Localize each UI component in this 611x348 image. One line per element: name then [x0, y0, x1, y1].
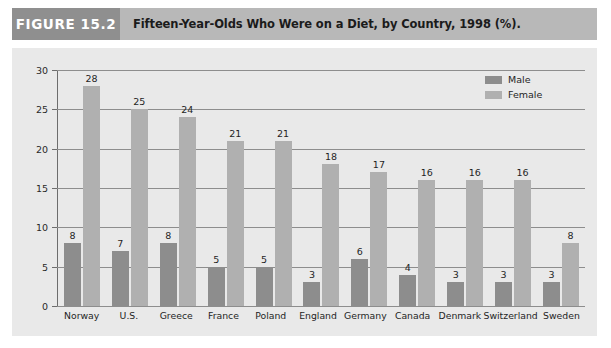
bar-female[interactable]: 17 — [370, 172, 387, 306]
bar-value-label: 21 — [277, 128, 289, 139]
bar-value-label: 6 — [357, 246, 363, 257]
x-axis-label: Poland — [247, 310, 294, 321]
bar-group: 316 — [489, 70, 537, 306]
bar-female[interactable]: 8 — [562, 243, 579, 306]
figure-title: Fifteen-Year-Olds Who Were on a Diet, by… — [133, 17, 521, 31]
bar-value-label: 4 — [405, 262, 411, 273]
x-axis-label: England — [294, 310, 341, 321]
bar-group-container: 82872582452152131861741631631638 — [58, 70, 585, 306]
figure-number-label: FIGURE 15.2 — [16, 16, 117, 32]
bar-male[interactable]: 3 — [303, 282, 320, 306]
bar-group: 521 — [250, 70, 298, 306]
bar-group: 725 — [106, 70, 154, 306]
bar-value-label: 21 — [229, 128, 241, 139]
bar-male[interactable]: 7 — [112, 251, 129, 306]
x-axis-label: Canada — [389, 310, 436, 321]
bar-male[interactable]: 6 — [351, 259, 368, 306]
y-axis-tick — [52, 306, 57, 307]
figure-number-badge: FIGURE 15.2 — [12, 8, 120, 40]
bar-group: 416 — [393, 70, 441, 306]
bar-female[interactable]: 16 — [418, 180, 435, 306]
plot-area: 051015202530 828725824521521318617416316… — [57, 70, 585, 306]
bar-group: 617 — [345, 70, 393, 306]
legend-item-male: Male — [485, 74, 542, 85]
y-axis-tick — [52, 70, 57, 71]
bar-male[interactable]: 3 — [543, 282, 560, 306]
bar-male[interactable]: 8 — [160, 243, 177, 306]
bar-male[interactable]: 5 — [256, 267, 273, 306]
x-axis-label: Germany — [342, 310, 389, 321]
bar-male[interactable]: 3 — [495, 282, 512, 306]
bar-male[interactable]: 4 — [399, 275, 416, 306]
y-axis-tick-label: 15 — [36, 183, 48, 194]
bar-female[interactable]: 21 — [275, 141, 292, 306]
bar-male[interactable]: 5 — [208, 267, 225, 306]
x-axis-label: Switzerland — [484, 310, 538, 321]
legend-label-male: Male — [508, 74, 531, 85]
y-axis-tick-label: 20 — [36, 143, 48, 154]
y-axis-tick — [52, 227, 57, 228]
bar-value-label: 28 — [85, 73, 97, 84]
bar-value-label: 3 — [548, 269, 554, 280]
gridline — [57, 306, 585, 307]
bar-group: 38 — [537, 70, 585, 306]
bar-group: 318 — [298, 70, 346, 306]
legend-label-female: Female — [508, 89, 542, 100]
figure-container: FIGURE 15.2 Fifteen-Year-Olds Who Were o… — [0, 0, 611, 348]
y-axis-tick — [52, 267, 57, 268]
x-axis-label: Norway — [58, 310, 105, 321]
bar-value-label: 3 — [453, 269, 459, 280]
y-axis-tick — [52, 188, 57, 189]
y-axis-tick-label: 0 — [42, 301, 48, 312]
legend-swatch-male-icon — [485, 76, 502, 84]
figure-title-bar: Fifteen-Year-Olds Who Were on a Diet, by… — [120, 8, 597, 40]
bar-value-label: 18 — [325, 151, 337, 162]
figure-header: FIGURE 15.2 Fifteen-Year-Olds Who Were o… — [12, 8, 597, 40]
bar-value-label: 3 — [501, 269, 507, 280]
y-axis-tick-label: 5 — [42, 261, 48, 272]
y-axis-tick — [52, 149, 57, 150]
x-axis-label-group: NorwayU.S.GreeceFrancePolandEnglandGerma… — [58, 310, 585, 321]
bar-value-label: 7 — [117, 238, 123, 249]
chart-legend: Male Female — [485, 74, 542, 104]
y-axis-tick-label: 30 — [36, 65, 48, 76]
bar-value-label: 24 — [181, 104, 193, 115]
bar-value-label: 5 — [261, 254, 267, 265]
legend-swatch-female-icon — [485, 91, 502, 99]
legend-item-female: Female — [485, 89, 542, 100]
x-axis-label: U.S. — [105, 310, 152, 321]
bar-male[interactable]: 8 — [64, 243, 81, 306]
bar-value-label: 5 — [213, 254, 219, 265]
bar-value-label: 25 — [133, 96, 145, 107]
y-axis-tick-label: 10 — [36, 222, 48, 233]
x-axis-label: Denmark — [436, 310, 483, 321]
bar-value-label: 3 — [309, 269, 315, 280]
bar-value-label: 16 — [517, 167, 529, 178]
bar-value-label: 17 — [373, 159, 385, 170]
bar-value-label: 8 — [69, 230, 75, 241]
y-axis-tick-label: 25 — [36, 104, 48, 115]
bar-female[interactable]: 21 — [227, 141, 244, 306]
bar-female[interactable]: 16 — [514, 180, 531, 306]
bar-group: 828 — [58, 70, 106, 306]
x-axis-label: France — [200, 310, 247, 321]
bar-female[interactable]: 16 — [466, 180, 483, 306]
chart-panel: 051015202530 828725824521521318617416316… — [12, 48, 597, 336]
x-axis-label: Greece — [153, 310, 200, 321]
bar-group: 824 — [154, 70, 202, 306]
bar-value-label: 16 — [469, 167, 481, 178]
y-axis-tick — [52, 109, 57, 110]
bar-group: 316 — [441, 70, 489, 306]
bar-female[interactable]: 25 — [131, 109, 148, 306]
bar-male[interactable]: 3 — [447, 282, 464, 306]
bar-value-label: 8 — [165, 230, 171, 241]
bar-group: 521 — [202, 70, 250, 306]
bar-female[interactable]: 24 — [179, 117, 196, 306]
bar-female[interactable]: 28 — [83, 86, 100, 306]
bar-value-label: 8 — [567, 230, 573, 241]
x-axis-label: Sweden — [538, 310, 585, 321]
bar-female[interactable]: 18 — [322, 164, 339, 306]
bar-value-label: 16 — [421, 167, 433, 178]
